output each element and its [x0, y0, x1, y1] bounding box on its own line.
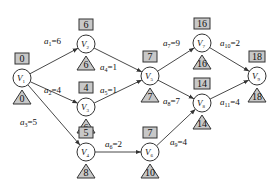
edge-label-a4: a4=1: [100, 62, 117, 73]
edge-label-a1: a1=6: [44, 36, 62, 47]
edge-label-a9: a9=4: [170, 137, 188, 148]
node-V4: 5V48: [77, 127, 95, 178]
node-V6: 7V610: [141, 127, 159, 178]
node-V7: 16V716: [193, 18, 211, 69]
earliest-time-value: 6: [84, 19, 89, 30]
edge-label-a2: a2=4: [44, 85, 62, 96]
edge-labels-layer: a1=6a2=4a3=5a4=1a5=1a6=2a7=9a8=7a9=4a10=…: [20, 36, 240, 150]
earliest-time-value: 16: [197, 18, 207, 29]
earliest-time-value: 14: [197, 78, 207, 89]
earliest-time-value: 7: [148, 127, 153, 138]
edge-label-a5: a5=1: [100, 85, 117, 96]
earliest-time-value: 4: [84, 82, 89, 93]
aoe-network-diagram: a1=6a2=4a3=5a4=1a5=1a6=2a7=9a8=7a9=4a10=…: [0, 0, 275, 192]
edge-label-a10: a10=2: [220, 38, 240, 49]
latest-time-value: 0: [20, 93, 25, 104]
edge-label-a3: a3=5: [20, 117, 38, 128]
earliest-time-value: 0: [20, 53, 25, 64]
edge-label-a7: a7=9: [163, 38, 181, 49]
node-V5: 7V57: [141, 51, 159, 102]
edge-label-a6: a6=2: [105, 139, 122, 150]
latest-time-value: 8: [84, 167, 89, 178]
edge-a9: [157, 109, 196, 146]
latest-time-value: 14: [197, 118, 207, 129]
node-V8: 14V814: [193, 78, 211, 129]
node-V1: 0V10: [13, 53, 31, 104]
latest-time-value: 7: [148, 91, 153, 102]
earliest-time-value: 5: [84, 127, 89, 138]
node-V2: 6V26: [77, 19, 95, 70]
edge-a1: [30, 48, 78, 74]
edges-layer: [28, 48, 249, 152]
latest-time-value: 6: [84, 59, 89, 70]
latest-time-value: 18: [252, 91, 262, 102]
edge-a10: [210, 48, 250, 72]
node-V3: 4V36: [77, 82, 95, 133]
earliest-time-value: 18: [252, 51, 262, 62]
edge-label-a8: a8=7: [163, 96, 181, 107]
latest-time-value: 16: [197, 58, 207, 69]
latest-time-value: 10: [145, 167, 155, 178]
earliest-time-value: 7: [148, 51, 153, 62]
edge-a7: [158, 48, 195, 71]
edge-label-a11: a11=4: [220, 97, 240, 108]
node-V9: 18V918: [248, 51, 266, 102]
